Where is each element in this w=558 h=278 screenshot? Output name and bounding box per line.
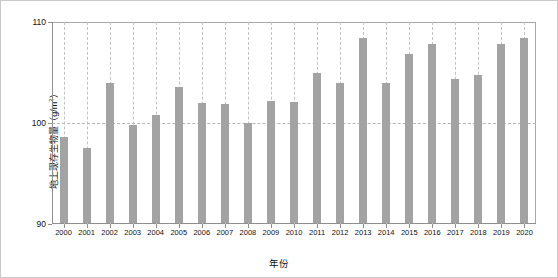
plot-area: 90100110 2000200120022003200420052006200… [52, 22, 536, 224]
bar [83, 148, 91, 223]
bar [382, 83, 390, 223]
x-tick-label: 2004 [147, 228, 164, 237]
y-tick-label: 90 [37, 219, 46, 229]
y-tick-label: 100 [32, 118, 46, 128]
bar [129, 125, 137, 223]
x-tick-label: 2012 [332, 228, 349, 237]
bar [198, 103, 206, 223]
x-tick-label: 2013 [355, 228, 372, 237]
x-tick-label: 2019 [493, 228, 510, 237]
bar [359, 38, 367, 223]
x-tick-label: 2002 [101, 228, 118, 237]
x-tick-label: 2009 [263, 228, 280, 237]
bar [497, 44, 505, 223]
x-tick-label: 2007 [217, 228, 234, 237]
y-tick-mark [48, 22, 52, 23]
bar [152, 115, 160, 223]
x-tick-label: 2015 [401, 228, 418, 237]
x-tick-label: 2008 [240, 228, 257, 237]
x-tick-label: 2003 [124, 228, 141, 237]
x-tick-label: 2020 [516, 228, 533, 237]
bar [267, 101, 275, 223]
bar [336, 83, 344, 223]
bar [175, 87, 183, 223]
x-tick-label: 2000 [55, 228, 72, 237]
x-tick-label: 2005 [170, 228, 187, 237]
bar [474, 75, 482, 223]
bar [106, 83, 114, 223]
y-tick-mark [48, 123, 52, 124]
bar [244, 123, 252, 223]
y-tick-mark [48, 224, 52, 225]
bar [313, 73, 321, 224]
bar [290, 102, 298, 223]
bar [520, 38, 528, 223]
x-tick-label: 2001 [78, 228, 95, 237]
x-tick-label: 2014 [378, 228, 395, 237]
bar [451, 79, 459, 223]
x-tick-label: 2006 [193, 228, 210, 237]
bar [428, 44, 436, 223]
x-tick-label: 2016 [424, 228, 441, 237]
bar [221, 104, 229, 223]
x-axis-title: 年份 [0, 256, 558, 270]
y-tick-label: 110 [32, 17, 46, 27]
bar [405, 54, 413, 223]
x-tick-label: 2010 [286, 228, 303, 237]
bar [60, 137, 68, 223]
x-tick-label: 2017 [447, 228, 464, 237]
x-tick-label: 2011 [309, 228, 325, 237]
x-tick-label: 2018 [470, 228, 487, 237]
chart-figure: 地上现存生物量（g/m2） 90100110 20002001200220032… [0, 0, 558, 278]
